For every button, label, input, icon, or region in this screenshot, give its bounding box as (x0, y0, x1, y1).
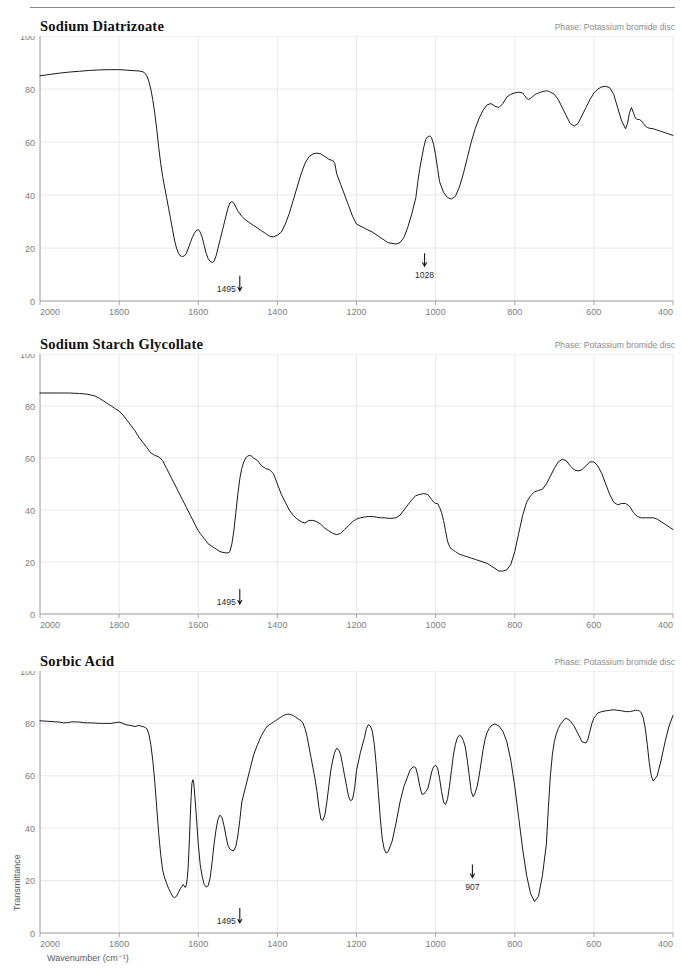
x-tick-label: 1000 (426, 620, 446, 630)
x-tick-label: 1800 (109, 620, 129, 630)
y-tick-label: 80 (25, 719, 35, 729)
annotation-label: 1495 (217, 284, 236, 294)
phase-label: Phase: Potassium bromide disc (555, 22, 675, 32)
x-tick-label: 800 (507, 939, 522, 949)
y-tick-label: 60 (25, 454, 35, 464)
y-tick-label: 100 (20, 354, 35, 360)
panel-title: Sodium Starch Glycollate (40, 336, 203, 353)
annotation-arrow-icon (238, 589, 242, 604)
x-tick-label: 600 (586, 620, 601, 630)
x-tick-label: 1200 (346, 939, 366, 949)
x-tick-label: 1600 (188, 307, 208, 317)
plot-area: 2000180016001400120010008006004000204060… (0, 671, 681, 961)
spectrum-svg: 2000180016001400120010008006004000204060… (0, 671, 681, 961)
x-tick-label: 400 (658, 307, 673, 317)
spectrum-panel: Sodium DiatrizoatePhase: Potassium bromi… (0, 18, 681, 333)
annotation-arrow-icon (238, 276, 242, 291)
peak-annotation: 907 (465, 865, 480, 892)
x-tick-label: 1000 (426, 939, 446, 949)
y-tick-label: 40 (25, 824, 35, 834)
y-tick-label: 0 (30, 929, 35, 939)
x-tick-label: 1400 (267, 939, 287, 949)
x-tick-label: 1800 (109, 939, 129, 949)
y-tick-label: 60 (25, 138, 35, 148)
panel-title: Sodium Diatrizoate (40, 18, 164, 35)
annotation-arrow-icon (422, 253, 426, 266)
plot-area: 2000180016001400120010008006004000204060… (0, 36, 681, 329)
x-tick-label: 1800 (109, 307, 129, 317)
y-tick-label: 20 (25, 558, 35, 568)
x-tick-label: 1200 (346, 620, 366, 630)
spectrum-svg: 2000180016001400120010008006004000204060… (0, 354, 681, 642)
y-tick-label: 80 (25, 85, 35, 95)
annotation-label: 1495 (217, 597, 236, 607)
peak-annotation: 1495 (217, 276, 242, 294)
y-tick-label: 20 (25, 876, 35, 886)
panel-title: Sorbic Acid (40, 653, 114, 670)
x-tick-label: 1200 (346, 307, 366, 317)
y-tick-label: 0 (30, 297, 35, 307)
peak-annotation: 1495 (217, 589, 242, 607)
x-tick-label: 2000 (40, 620, 60, 630)
header-rule (30, 7, 675, 8)
plot-area: 2000180016001400120010008006004000204060… (0, 354, 681, 642)
x-tick-label: 1400 (267, 620, 287, 630)
annotation-arrow-icon (470, 865, 474, 878)
x-tick-label: 2000 (40, 307, 60, 317)
x-tick-label: 1600 (188, 620, 208, 630)
y-tick-label: 100 (20, 36, 35, 42)
x-tick-label: 600 (586, 939, 601, 949)
y-axis-title: Transmittance (12, 854, 22, 911)
spectrum-panel: Sorbic AcidPhase: Potassium bromide disc… (0, 653, 681, 965)
x-tick-label: 400 (658, 620, 673, 630)
phase-label: Phase: Potassium bromide disc (555, 340, 675, 350)
y-tick-label: 60 (25, 771, 35, 781)
annotation-label: 1028 (415, 270, 434, 280)
x-tick-label: 1000 (426, 307, 446, 317)
x-tick-label: 1400 (267, 307, 287, 317)
x-tick-label: 2000 (40, 939, 60, 949)
y-tick-label: 0 (30, 610, 35, 620)
annotation-label: 907 (465, 882, 480, 892)
spectrum-panel: Sodium Starch GlycollatePhase: Potassium… (0, 336, 681, 646)
spectrum-svg: 2000180016001400120010008006004000204060… (0, 36, 681, 329)
annotation-arrow-icon (238, 908, 242, 923)
x-tick-label: 800 (507, 620, 522, 630)
peak-annotation: 1495 (217, 908, 242, 926)
phase-label: Phase: Potassium bromide disc (555, 657, 675, 667)
x-axis-title: Wavenumber (cm⁻¹) (47, 953, 129, 963)
y-tick-label: 80 (25, 402, 35, 412)
y-tick-label: 100 (20, 671, 35, 677)
x-tick-label: 800 (507, 307, 522, 317)
annotation-label: 1495 (217, 916, 236, 926)
y-tick-label: 40 (25, 506, 35, 516)
x-tick-label: 600 (586, 307, 601, 317)
x-tick-label: 400 (658, 939, 673, 949)
y-tick-label: 20 (25, 244, 35, 254)
peak-annotation: 1028 (415, 253, 434, 280)
x-tick-label: 1600 (188, 939, 208, 949)
y-tick-label: 40 (25, 191, 35, 201)
